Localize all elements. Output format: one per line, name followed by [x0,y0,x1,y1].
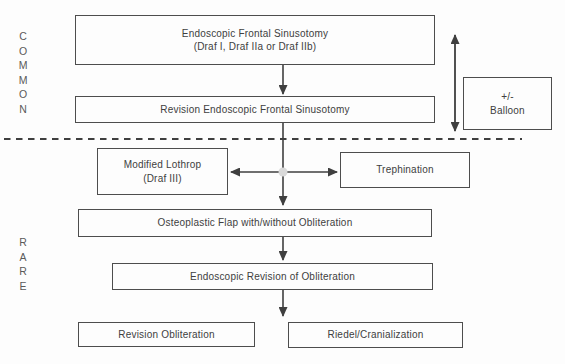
node-label-line1: Modified Lothrop [124,158,202,172]
junction-dot-icon [279,168,288,177]
region-label-common: COMMON [17,30,29,118]
node-osteoplastic-flap: Osteoplastic Flap with/without Obliterat… [78,209,432,237]
node-label-line1: +/- [501,90,514,104]
region-label-rare: RARE [17,236,29,294]
node-label: Endoscopic Revision of Obliteration [190,270,355,284]
node-label-line2: Balloon [490,104,525,118]
node-label: Osteoplastic Flap with/without Obliterat… [158,216,353,230]
node-label: Trephination [376,163,434,177]
node-label: Revision Obliteration [118,328,214,342]
node-modified-lothrop: Modified Lothrop (Draf III) [97,148,228,195]
node-trephination: Trephination [340,152,470,188]
node-label-line1: Endoscopic Frontal Sinusotomy [182,27,328,41]
node-label-line2: (Draf III) [143,172,182,186]
node-riedel-cranialization: Riedel/Cranialization [288,322,463,348]
node-label-line2: (Draf I, Draf IIa or Draf IIb) [194,40,317,54]
node-label: Riedel/Cranialization [328,328,424,342]
node-label: Revision Endoscopic Frontal Sinusotomy [160,103,349,117]
node-revision-endoscopic-frontal-sinusotomy: Revision Endoscopic Frontal Sinusotomy [75,96,435,123]
flowchart-frontal-sinus-surgery: COMMON RARE Endoscopic Frontal Sinusotom… [0,0,565,364]
node-endoscopic-frontal-sinusotomy: Endoscopic Frontal Sinusotomy (Draf I, D… [75,15,435,65]
node-endoscopic-revision-of-obliteration: Endoscopic Revision of Obliteration [112,263,433,290]
node-revision-obliteration: Revision Obliteration [78,322,255,347]
node-balloon-annotation: +/- Balloon [463,77,552,130]
